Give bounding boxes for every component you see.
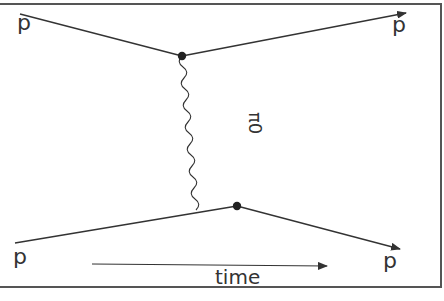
incoming-proton-top-line <box>20 14 182 56</box>
label-outgoing-bottom: p <box>383 248 397 273</box>
vertex-top <box>178 52 186 60</box>
label-incoming-bottom: p <box>13 244 27 269</box>
feynman-diagram: p p p p π0 time <box>0 0 444 301</box>
incoming-proton-bottom-line <box>15 206 237 243</box>
label-incoming-top: p <box>17 10 31 35</box>
label-exchange-particle: π0 <box>245 112 266 134</box>
vertex-bottom <box>233 202 241 210</box>
pion-propagator-wavy-line <box>179 56 199 210</box>
time-axis-label: time <box>215 265 260 289</box>
outgoing-proton-bottom-arrow <box>237 206 400 249</box>
frame <box>0 4 442 288</box>
time-axis-arrow <box>92 264 327 266</box>
outgoing-proton-top-arrow <box>182 13 406 56</box>
label-outgoing-top: p <box>392 12 406 37</box>
